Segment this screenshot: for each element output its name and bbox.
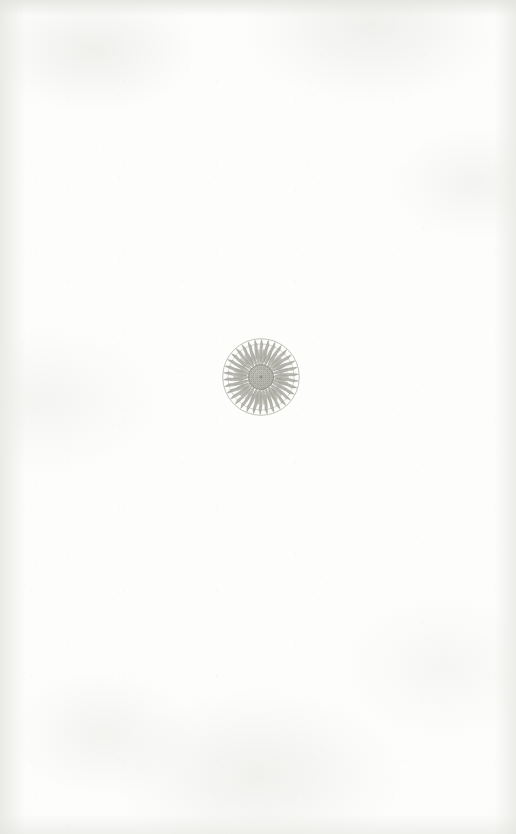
book-page: Floral roundel ornament <box>0 0 516 834</box>
floral-roundel-icon <box>222 338 300 416</box>
seed-disc <box>248 364 273 389</box>
paper-texture-overlay <box>0 0 516 834</box>
floral-roundel-ornament: Floral roundel ornament <box>222 338 300 416</box>
